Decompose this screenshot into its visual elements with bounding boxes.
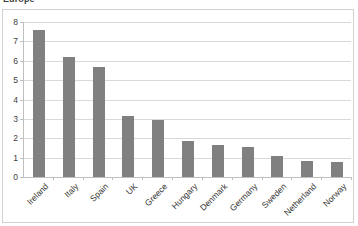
bar-spain	[93, 67, 105, 177]
y-tick-mark	[20, 158, 23, 159]
y-tick-mark	[20, 119, 23, 120]
x-tick-mark	[232, 177, 233, 180]
x-tick-label-italy: Italy	[63, 182, 80, 199]
x-tick-mark	[351, 177, 352, 180]
y-tick-label: 7	[13, 37, 18, 46]
chart-title: Europe	[3, 0, 35, 4]
y-tick-label: 8	[13, 18, 18, 27]
y-tick-mark	[20, 100, 23, 101]
bar-netherland	[301, 161, 313, 177]
x-tick-mark	[291, 177, 292, 180]
y-tick-label: 5	[13, 76, 18, 85]
y-tick-mark	[20, 138, 23, 139]
y-tick-label: 3	[13, 115, 18, 124]
chart-plot-area: 012345678	[23, 22, 351, 177]
x-tick-mark	[202, 177, 203, 180]
y-tick-mark	[20, 22, 23, 23]
y-tick-label: 6	[13, 57, 18, 66]
bar-uk	[122, 116, 134, 177]
x-tick-label-ireland: Ireland	[26, 182, 50, 206]
bar-greece	[152, 120, 164, 177]
x-tick-label-spain: Spain	[88, 182, 109, 203]
bar-norway	[331, 162, 343, 177]
bar-sweden	[271, 156, 283, 177]
x-tick-label-norway: Norway	[322, 182, 348, 208]
x-tick-label-denmark: Denmark	[198, 182, 228, 212]
x-tick-mark	[53, 177, 54, 180]
y-tick-label: 2	[13, 134, 18, 143]
chart-plot-frame: 012345678 IrelandItalySpainUKGreeceHunga…	[2, 9, 354, 223]
x-tick-mark	[321, 177, 322, 180]
y-tick-mark	[20, 80, 23, 81]
x-axis-line	[23, 177, 351, 178]
x-tick-mark	[112, 177, 113, 180]
x-tick-label-sweden: Sweden	[261, 182, 289, 210]
y-tick-mark	[20, 61, 23, 62]
bars-group	[24, 22, 351, 177]
x-tick-label-uk: UK	[125, 182, 139, 196]
y-tick-label: 0	[13, 173, 18, 182]
x-tick-mark	[83, 177, 84, 180]
x-tick-label-greece: Greece	[143, 182, 169, 208]
x-tick-mark	[262, 177, 263, 180]
bar-italy	[63, 57, 75, 177]
bar-germany	[242, 147, 254, 177]
y-tick-label: 4	[13, 95, 18, 104]
bar-ireland	[33, 30, 45, 177]
bar-hungary	[182, 141, 194, 177]
y-tick-mark	[20, 41, 23, 42]
x-tick-label-germany: Germany	[228, 182, 259, 213]
x-tick-mark	[142, 177, 143, 180]
x-tick-label-hungary: Hungary	[170, 182, 199, 211]
x-tick-mark	[172, 177, 173, 180]
y-tick-label: 1	[13, 153, 18, 162]
bar-denmark	[212, 145, 224, 177]
